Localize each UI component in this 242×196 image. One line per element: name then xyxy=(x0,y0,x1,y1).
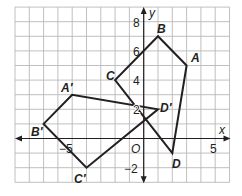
vertex-label-C-prime: C′ xyxy=(74,172,87,186)
x-axis-label: x xyxy=(218,123,226,137)
y-tick-2: 2 xyxy=(133,103,140,117)
vertex-label-B-prime: B′ xyxy=(31,125,44,139)
origin-label: O xyxy=(131,142,140,156)
grid-lines xyxy=(15,7,230,182)
vertex-label-A: A xyxy=(190,51,200,65)
y-tick-8: 8 xyxy=(133,16,140,30)
vertex-label-D: D xyxy=(172,157,181,171)
x-tick-neg5: −5 xyxy=(59,142,73,156)
axes xyxy=(15,7,231,183)
x-tick-5: 5 xyxy=(210,142,217,156)
y-tick-neg2: −2 xyxy=(124,162,138,176)
x-axis-left-arrow-icon xyxy=(15,136,22,142)
y-tick-6: 6 xyxy=(133,45,140,59)
y-axis-up-arrow-icon xyxy=(141,7,147,14)
vertex-label-D-prime: D′ xyxy=(160,101,173,115)
vertex-label-A-prime: A′ xyxy=(60,81,74,95)
y-tick-4: 4 xyxy=(133,74,140,88)
coordinate-plane: y x O −5 5 8 6 4 2 −2 A B C D A′ B′ C′ D… xyxy=(0,0,242,196)
y-axis-label: y xyxy=(148,6,156,20)
vertex-label-C: C xyxy=(106,69,115,83)
vertex-label-B: B xyxy=(157,22,166,36)
